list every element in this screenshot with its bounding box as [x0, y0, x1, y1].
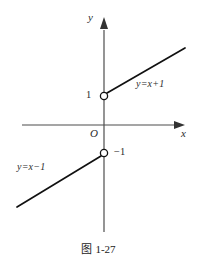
tick-label-y-positive-one: 1 [86, 90, 91, 101]
y-axis-label: y [88, 12, 93, 23]
coordinate-plot: y x O 1 −1 y=x+1 y=x−1 [0, 0, 197, 240]
equation-label-lower: y=x−1 [17, 162, 45, 172]
open-point-zero-one [100, 92, 107, 99]
tick-label-y-negative-one: −1 [114, 147, 125, 158]
figure-container: y x O 1 −1 y=x+1 y=x−1 图1-27 [0, 0, 197, 269]
y-axis-arrowhead [100, 17, 108, 29]
caption-number: 1-27 [95, 243, 115, 255]
open-point-zero-minus-one [100, 149, 107, 156]
equation-label-upper: y=x+1 [136, 79, 164, 89]
figure-caption: 图1-27 [0, 240, 197, 256]
origin-label: O [90, 128, 98, 139]
x-axis-label: x [181, 128, 186, 139]
caption-label: 图 [81, 243, 92, 255]
plot-svg [0, 0, 197, 240]
